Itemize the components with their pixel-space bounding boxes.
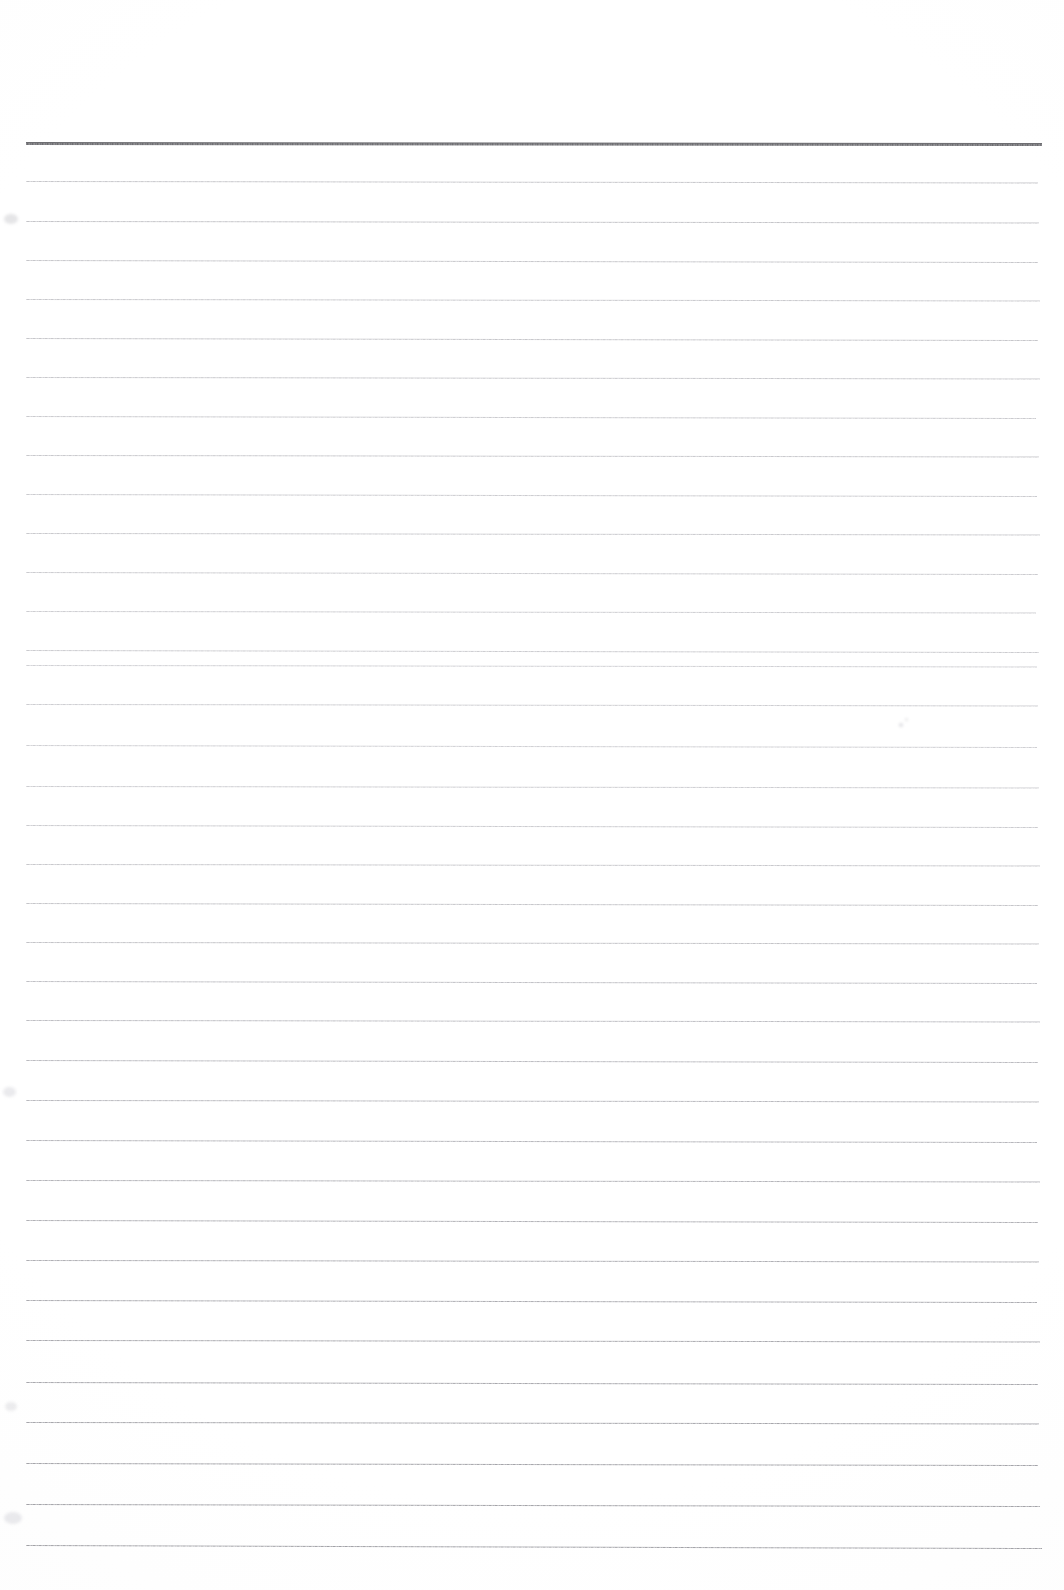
rule-line	[26, 786, 1039, 788]
rule-line	[26, 1020, 1040, 1023]
rule-line	[26, 665, 1037, 667]
rule-line	[26, 416, 1036, 419]
rule-line	[26, 572, 1038, 575]
rule-line	[26, 455, 1039, 457]
rule-line	[26, 1340, 1040, 1343]
rule-line	[26, 745, 1037, 748]
rule-line	[26, 1260, 1039, 1262]
rule-line	[26, 611, 1036, 614]
rule-line	[26, 1300, 1037, 1303]
rule-line	[26, 942, 1039, 944]
rule-line	[26, 533, 1040, 536]
ruled-lines-layer	[0, 0, 1064, 1590]
rule-line	[26, 1504, 1040, 1507]
rule-line	[26, 221, 1039, 223]
rule-line	[26, 338, 1038, 341]
rule-line	[26, 1382, 1038, 1385]
rule-line	[26, 377, 1040, 380]
rule-line	[26, 1060, 1038, 1063]
rule-line	[26, 981, 1037, 984]
rule-line	[26, 825, 1038, 828]
rule-line	[26, 1220, 1038, 1223]
rule-line	[26, 864, 1040, 867]
rule-line	[26, 1100, 1039, 1102]
rule-line	[26, 1180, 1040, 1183]
rule-line	[26, 903, 1038, 906]
rule-line	[26, 704, 1038, 706]
rule-line	[26, 650, 1039, 653]
rule-line	[26, 1463, 1038, 1466]
rule-line	[26, 181, 1038, 183]
rule-line	[26, 1545, 1042, 1549]
header-rule	[26, 142, 1042, 146]
rule-line	[26, 299, 1040, 302]
scanned-page	[0, 0, 1064, 1590]
rule-line	[26, 1422, 1039, 1424]
rule-line	[26, 494, 1037, 497]
rule-line	[26, 1140, 1037, 1143]
rule-line	[26, 260, 1038, 263]
